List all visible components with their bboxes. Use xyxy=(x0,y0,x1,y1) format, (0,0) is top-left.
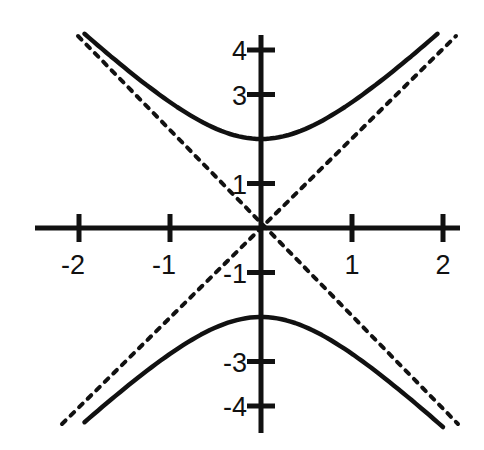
x-tick-label: -1 xyxy=(152,250,176,280)
y-tick-label: 1 xyxy=(232,170,247,200)
x-tick-label: -2 xyxy=(61,250,85,280)
y-tick-label: 4 xyxy=(232,36,247,66)
hyperbola-lower-branch xyxy=(85,317,444,427)
y-tick-label: 3 xyxy=(232,81,247,111)
hyperbola-plot: -2-112 431-1-3-4 xyxy=(0,0,484,450)
x-tick-label: 1 xyxy=(344,250,359,280)
y-tick-label: -3 xyxy=(223,348,247,378)
y-tick-label: -4 xyxy=(223,392,247,422)
y-tick-label: -1 xyxy=(223,259,247,289)
x-tick-label: 2 xyxy=(435,250,450,280)
